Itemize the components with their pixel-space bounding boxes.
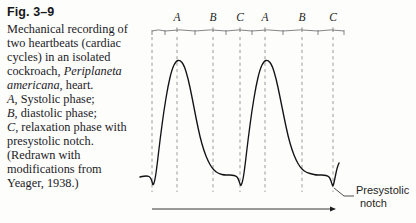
phase-label-b-1: B xyxy=(209,11,216,23)
bracket-span-6 xyxy=(318,30,344,31)
bracket-span-5 xyxy=(283,30,318,31)
phase-label-b-4: B xyxy=(298,11,305,23)
heart-recording-plot: ABCABC Presystolicnotch xyxy=(0,0,416,223)
phase-label-a-0: A xyxy=(172,11,181,23)
phase-label-a-3: A xyxy=(260,11,269,23)
bracket-span-0 xyxy=(152,30,165,31)
bracket-span-2 xyxy=(195,30,226,31)
phase-labels-group: ABCABC xyxy=(172,11,337,23)
plot-svg: ABCABC Presystolicnotch xyxy=(0,0,416,223)
bracket-span-1 xyxy=(165,30,195,31)
phase-label-c-2: C xyxy=(236,11,244,23)
bracket-span-3 xyxy=(226,30,252,31)
time-axis-arrow xyxy=(152,206,336,211)
phase-label-c-5: C xyxy=(329,11,337,23)
presystolic-notch-label-line1: Presystolic xyxy=(356,184,410,196)
phase-bracket xyxy=(152,28,344,36)
figure-page: Fig. 3–9 Mechanical recording oftwo hear… xyxy=(0,0,416,223)
presystolic-notch-annotation: Presystolicnotch xyxy=(356,184,410,209)
presystolic-notch-label-line2: notch xyxy=(360,197,387,209)
annotation-leader-line xyxy=(334,188,354,196)
time-arrow-head xyxy=(330,206,336,211)
presystolic-notch-leader xyxy=(334,188,354,196)
bracket-span-4 xyxy=(252,30,283,31)
